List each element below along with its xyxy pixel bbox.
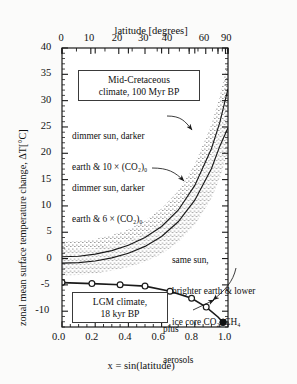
lgm-marker-point [117, 282, 123, 288]
figure-canvas: zonal mean surface temperature change, Δ… [0, 0, 297, 384]
y-tick-label: 40 [41, 41, 52, 53]
x-top-tick-label: 60 [199, 32, 210, 44]
x-bottom-tick-label: 0.0 [52, 331, 65, 343]
x-bottom-tick-label: 0.2 [85, 331, 98, 343]
x-top-tick-label: 20 [112, 32, 123, 44]
lgm-line2: 18 kyr BP [78, 308, 162, 320]
lgm-marker-point [142, 283, 148, 289]
x-top-tick-label: 90 [221, 32, 232, 44]
x-top-tick-label: 40 [162, 32, 173, 44]
y-tick-label: 0 [46, 252, 51, 264]
annotation-aerosols: plus aerosols [163, 303, 193, 384]
annotation-co2-6x: dimmer sun, darker earth & 6 × (CO₂)₀ [72, 162, 145, 245]
y-tick-label: 25 [41, 120, 52, 132]
annotation-aerosols-line1: plus [163, 324, 193, 334]
y-tick-label: 10 [41, 199, 52, 211]
y-tick-label: 15 [41, 173, 52, 185]
x-top-tick-label: 10 [84, 32, 95, 44]
cretaceous-line1: Mid-Cretaceous [84, 74, 194, 86]
annotation-aerosols-line2: aerosols [163, 355, 193, 365]
cretaceous-line2: climate, 100 Myr BP [84, 86, 194, 98]
y-tick-label: 35 [41, 67, 52, 79]
label-box-cretaceous: Mid-Cretaceous climate, 100 Myr BP [78, 70, 200, 101]
annotation-lgm-forcing-line2: brighter earth & lower [172, 286, 255, 296]
annotation-lgm-forcing-line1: same sun, [172, 255, 255, 265]
annotation-co2-6x-line1: dimmer sun, darker [72, 183, 145, 193]
y-tick-label: 20 [41, 146, 52, 158]
y-tick-label: 5 [46, 225, 51, 237]
y-tick-label: -10 [35, 304, 49, 316]
y-tick-label: 30 [41, 94, 52, 106]
x-top-tick-label: 30 [138, 32, 149, 44]
x-bottom-tick-label: 0.4 [118, 331, 131, 343]
lgm-line1: LGM climate, [78, 296, 162, 308]
x-top-tick-label: 0 [59, 32, 64, 44]
annotation-co2-6x-line2: earth & 6 × (CO₂)₀ [72, 214, 145, 224]
label-box-lgm: LGM climate, 18 kyr BP [72, 292, 168, 323]
y-tick-label: -5 [41, 278, 50, 290]
lgm-marker-point [89, 281, 95, 287]
annotation-co2-10x-line1: dimmer sun, darker [72, 131, 147, 141]
